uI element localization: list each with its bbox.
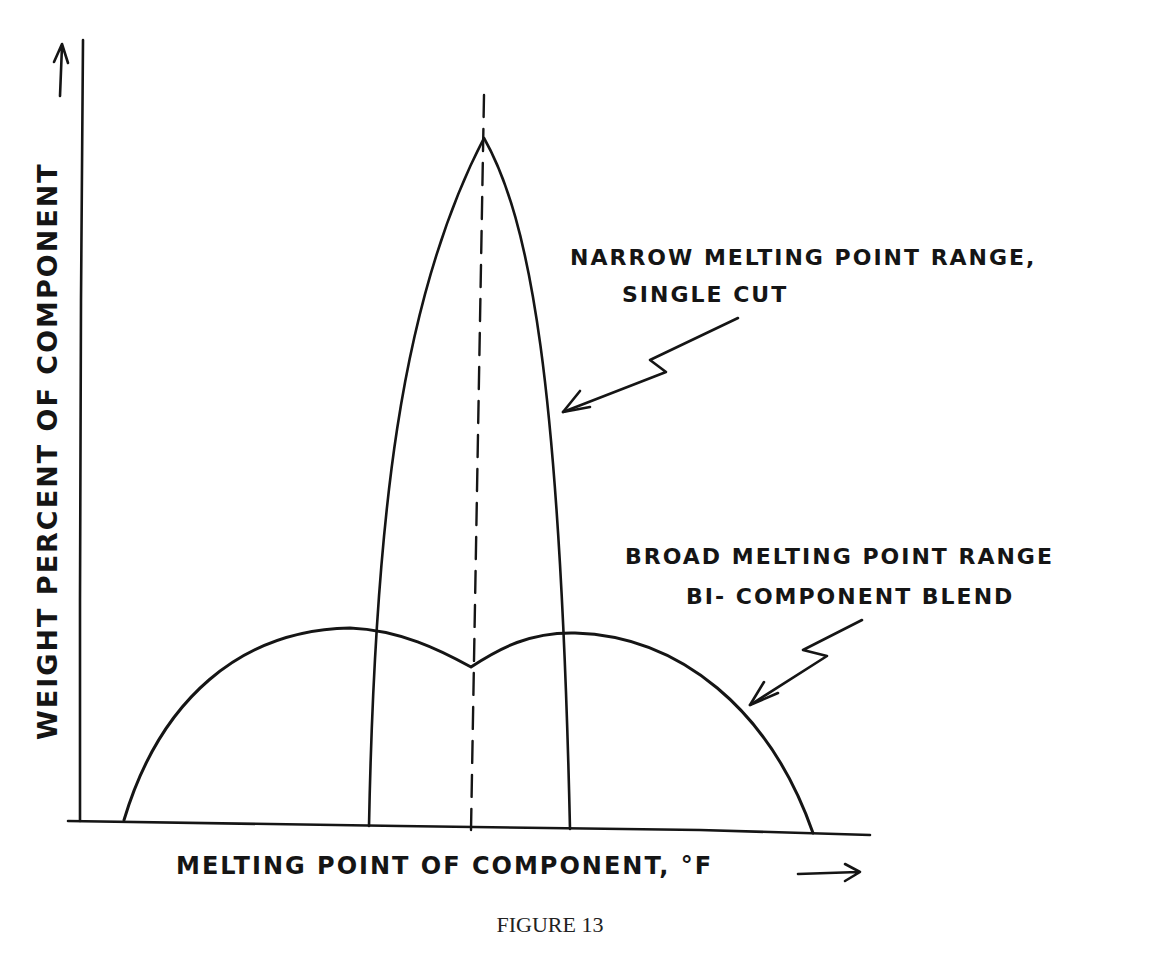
- figure-caption: FIGURE 13: [0, 912, 1100, 938]
- broad-range-curve: [124, 628, 813, 833]
- x-axis-line: [68, 821, 870, 835]
- narrow-annotation-line2: SINGLE CUT: [622, 282, 788, 307]
- broad-annotation-line2: BI- COMPONENT BLEND: [686, 584, 1014, 609]
- center-dashed-line: [471, 95, 484, 830]
- x-label-arrow-icon: [798, 864, 860, 881]
- y-axis-label: WEIGHT PERCENT OF COMPONENT: [32, 162, 63, 740]
- y-label-arrow-icon: [54, 44, 68, 96]
- broad-annotation-line1: BROAD MELTING POINT RANGE: [625, 544, 1054, 569]
- narrow-annotation-line1: NARROW MELTING POINT RANGE,: [570, 245, 1036, 270]
- x-axis-label: MELTING POINT OF COMPONENT, °F: [176, 852, 713, 880]
- y-axis-line: [80, 40, 83, 821]
- narrow-callout-arrow: [563, 318, 738, 412]
- narrow-range-curve: [369, 138, 570, 829]
- narrow-arrowhead-icon: [563, 391, 590, 412]
- figure-13-chart: WEIGHT PERCENT OF COMPONENT MELTING POIN…: [0, 0, 1156, 971]
- broad-callout-arrow: [750, 620, 862, 705]
